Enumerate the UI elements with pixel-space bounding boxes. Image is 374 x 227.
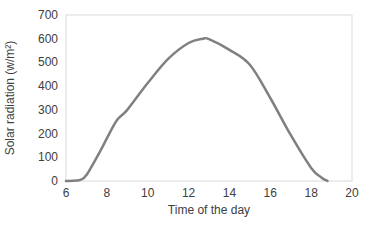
x-tick-label: 8 <box>104 186 111 200</box>
y-tick-label: 600 <box>38 32 58 46</box>
y-axis-label: Solar radiation (w/m²) <box>3 41 17 156</box>
solar-radiation-chart: 0100200300400500600700 68101214161820 Ti… <box>0 0 374 227</box>
y-tick-label: 200 <box>38 127 58 141</box>
x-tick-label: 14 <box>223 186 237 200</box>
x-axis-ticks: 68101214161820 <box>63 186 359 200</box>
y-tick-label: 400 <box>38 79 58 93</box>
y-tick-label: 700 <box>38 8 58 22</box>
y-axis-ticks: 0100200300400500600700 <box>38 8 58 188</box>
x-tick-label: 16 <box>264 186 278 200</box>
x-tick-label: 18 <box>304 186 318 200</box>
x-axis-label: Time of the day <box>168 203 250 217</box>
y-tick-label: 500 <box>38 55 58 69</box>
y-tick-label: 0 <box>51 174 58 188</box>
x-tick-label: 6 <box>63 186 70 200</box>
y-tick-label: 300 <box>38 103 58 117</box>
y-tick-label: 100 <box>38 150 58 164</box>
x-tick-label: 20 <box>345 186 359 200</box>
x-tick-label: 12 <box>182 186 196 200</box>
x-tick-label: 10 <box>141 186 155 200</box>
